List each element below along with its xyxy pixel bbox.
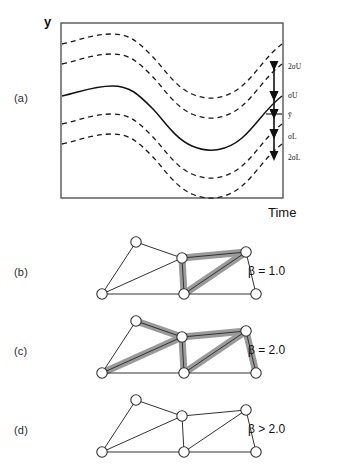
truss-node	[177, 332, 187, 342]
curve-upper-1sigma	[62, 54, 282, 118]
label-lower-1sigma: σL	[288, 132, 297, 141]
plot-frame	[61, 23, 283, 198]
beta-label-b: β = 1.0	[248, 264, 285, 278]
truss-member	[136, 400, 182, 416]
y-axis-label: y	[44, 14, 51, 29]
curve-mean	[62, 86, 282, 150]
panel-label-c: (c)	[14, 345, 27, 357]
truss-node	[131, 395, 141, 405]
truss-node	[97, 289, 107, 299]
panel-label-d: (d)	[14, 424, 28, 436]
curve-lower-2sigma	[62, 134, 282, 198]
truss-node	[241, 247, 251, 257]
panel-label-b: (b)	[14, 266, 28, 278]
beta-label-c: β = 2.0	[248, 343, 285, 357]
truss-node	[241, 405, 251, 415]
label-upper-2sigma: 2σU	[288, 62, 302, 71]
truss-member	[136, 242, 182, 258]
label-upper-1sigma: σU	[288, 91, 298, 100]
truss-node	[131, 316, 141, 326]
label-lower-2sigma: 2σL	[288, 153, 301, 162]
truss-node	[97, 368, 107, 378]
label-mean: ȳ	[288, 110, 292, 119]
truss-node	[131, 237, 141, 247]
beta-label-d: β > 2.0	[248, 422, 285, 436]
truss-node	[177, 253, 187, 263]
truss-node	[179, 289, 189, 299]
confidence-band-plot: 2σU σU ȳ σL 2σL	[60, 22, 328, 204]
truss-member	[136, 321, 182, 337]
x-axis-label: Time	[268, 205, 296, 220]
truss-node	[177, 411, 187, 421]
truss-node	[251, 447, 261, 457]
panel-label-a: (a)	[14, 92, 28, 104]
truss-node	[251, 368, 261, 378]
truss-node	[251, 289, 261, 299]
truss-node	[241, 326, 251, 336]
curve-lower-1sigma	[62, 114, 282, 178]
truss-member	[184, 410, 246, 452]
truss-node	[179, 368, 189, 378]
truss-member	[182, 410, 246, 416]
truss-node	[179, 447, 189, 457]
figure-root: (a) y Time	[0, 0, 340, 474]
truss-node	[97, 447, 107, 457]
